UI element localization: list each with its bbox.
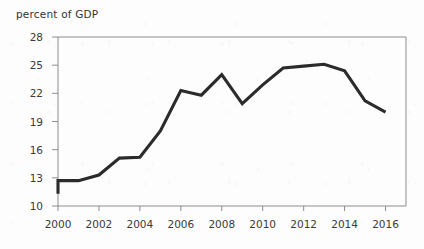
x-tick-label: 2012	[290, 218, 317, 230]
y-tick-label: 25	[30, 59, 43, 71]
chart-page: percent of GDP 10131619222528 2000200220…	[0, 0, 424, 249]
axis-frame	[58, 37, 406, 206]
y-tick-label: 13	[30, 172, 43, 184]
x-axis-tick-marks	[58, 206, 386, 211]
line-chart-plot: 10131619222528 2000200220042006200820102…	[0, 0, 424, 249]
x-axis-tick-labels: 200020022004200620082010201220142016	[45, 218, 400, 230]
y-tick-label: 10	[30, 200, 43, 212]
y-tick-label: 16	[30, 144, 44, 156]
data-series-line	[58, 64, 386, 194]
x-tick-label: 2004	[127, 218, 154, 230]
y-tick-label: 28	[30, 31, 43, 43]
y-axis-tick-labels: 10131619222528	[30, 31, 44, 212]
x-tick-label: 2000	[45, 218, 72, 230]
y-tick-label: 19	[30, 116, 43, 128]
x-tick-label: 2014	[331, 218, 358, 230]
x-tick-label: 2002	[86, 218, 113, 230]
x-tick-label: 2006	[167, 218, 194, 230]
x-tick-label: 2008	[208, 218, 235, 230]
x-tick-label: 2010	[249, 218, 276, 230]
x-tick-label: 2016	[372, 218, 399, 230]
y-tick-label: 22	[30, 87, 43, 99]
